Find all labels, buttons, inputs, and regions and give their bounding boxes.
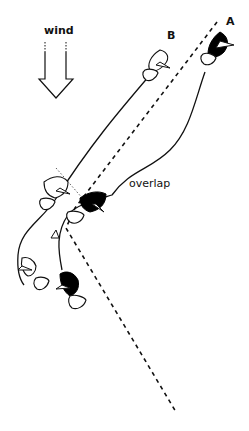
- overlap-label: overlap: [129, 177, 170, 190]
- boat-b-top: [143, 50, 170, 81]
- boat-b-bottom: [18, 257, 49, 289]
- boat-b-label: B: [167, 29, 175, 42]
- wind-label: wind: [44, 24, 74, 37]
- boat-a-track: [59, 72, 205, 270]
- boat-a-middle: [67, 192, 106, 223]
- boat-a-label: A: [226, 15, 235, 28]
- course-dashed-line: [66, 22, 217, 412]
- boat-a-bottom: [56, 272, 86, 309]
- diagram-canvas: wind B A overlap: [0, 0, 249, 431]
- boat-b-middle: [40, 177, 70, 210]
- mark-triangle-icon: [51, 230, 59, 238]
- wind-arrow-icon: [39, 42, 73, 98]
